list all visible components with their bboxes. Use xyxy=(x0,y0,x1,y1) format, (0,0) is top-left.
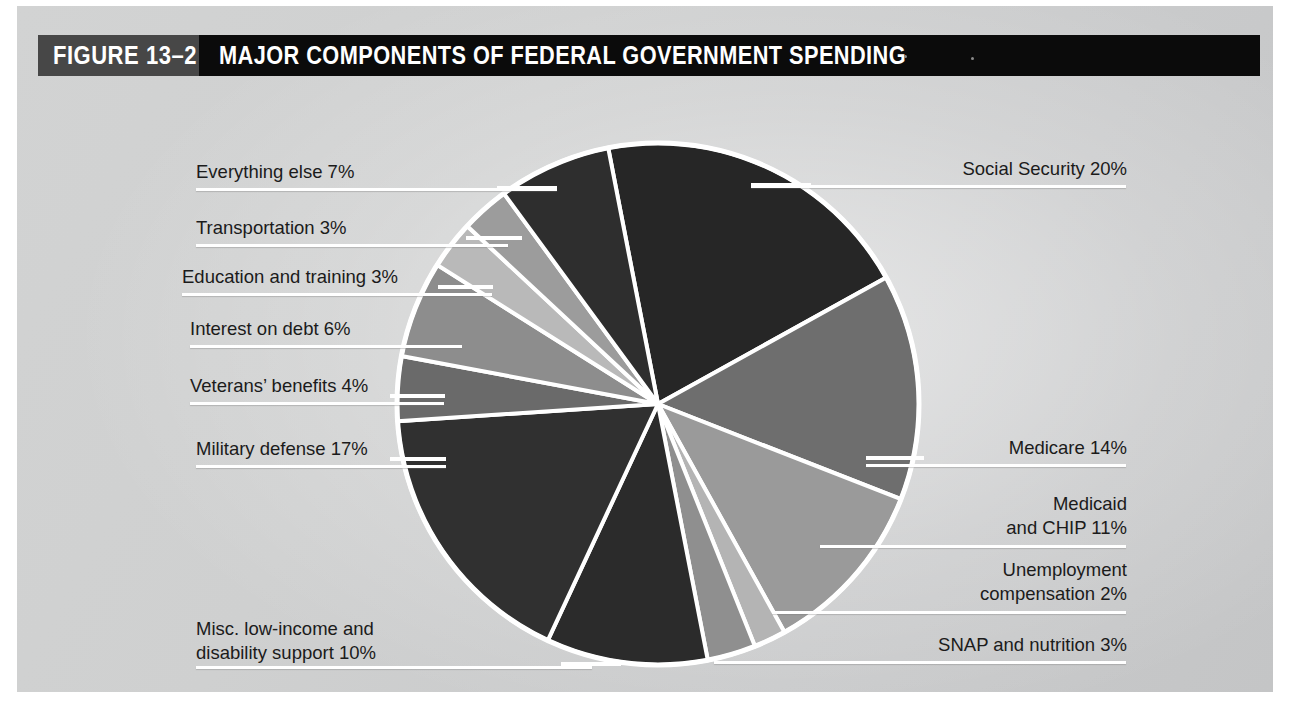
figure-title-text: MAJOR COMPONENTS OF FEDERAL GOVERNMENT S… xyxy=(219,41,906,70)
callout-medicare-text: Medicare 14% xyxy=(1009,437,1127,458)
figure-title-bar: MAJOR COMPONENTS OF FEDERAL GOVERNMENT S… xyxy=(199,35,1260,76)
callout-military-defense: Military defense 17% xyxy=(196,437,368,461)
leader-misc-low-income xyxy=(196,666,592,669)
leader-medicare xyxy=(866,464,1126,467)
callout-military-defense-text: Military defense 17% xyxy=(196,438,368,459)
title-speck-icon xyxy=(904,55,907,58)
leader-education-training xyxy=(182,293,492,296)
callout-veterans-benefits: Veterans’ benefits 4% xyxy=(190,374,368,398)
callout-everything-else-text: Everything else 7% xyxy=(196,161,354,182)
callout-medicaid-chip: Medicaid and CHIP 11% xyxy=(1006,492,1127,541)
figure-root: FIGURE 13–2 MAJOR COMPONENTS OF FEDERAL … xyxy=(0,0,1297,723)
callout-snap-nutrition: SNAP and nutrition 3% xyxy=(938,633,1127,657)
callout-unemployment-line2: compensation 2% xyxy=(980,582,1127,606)
callout-misc-low-income-line2: disability support 10% xyxy=(196,641,376,665)
leader-tick-education-training xyxy=(438,285,493,289)
callout-transportation-text: Transportation 3% xyxy=(196,217,346,238)
leader-interest-on-debt xyxy=(190,345,462,348)
callout-social-security: Social Security 20% xyxy=(962,157,1127,181)
leader-tick-everything-else xyxy=(497,186,557,190)
callout-interest-on-debt-text: Interest on debt 6% xyxy=(190,318,350,339)
callout-unemployment-line1: Unemployment xyxy=(980,558,1127,582)
leader-medicaid-chip xyxy=(820,545,1126,548)
leader-transportation xyxy=(196,244,508,247)
leader-tick-social-security xyxy=(751,183,811,187)
leader-tick-veterans-benefits xyxy=(390,394,445,398)
leader-snap-nutrition xyxy=(714,661,1126,664)
callout-medicaid-chip-line2: and CHIP 11% xyxy=(1006,516,1127,540)
figure-header-bar: FIGURE 13–2 MAJOR COMPONENTS OF FEDERAL … xyxy=(38,35,1260,76)
callout-everything-else: Everything else 7% xyxy=(196,160,354,184)
leader-military-defense xyxy=(196,465,446,468)
callout-education-training-text: Education and training 3% xyxy=(182,266,398,287)
callout-misc-low-income-line1: Misc. low-income and xyxy=(196,617,376,641)
callout-transportation: Transportation 3% xyxy=(196,216,346,240)
leader-unemployment-compensation xyxy=(772,611,1126,614)
callout-social-security-text: Social Security 20% xyxy=(962,158,1127,179)
figure-number-tag: FIGURE 13–2 xyxy=(38,35,215,76)
callout-medicaid-chip-line1: Medicaid xyxy=(1006,492,1127,516)
leader-tick-medicare xyxy=(866,456,924,460)
callout-interest-on-debt: Interest on debt 6% xyxy=(190,317,350,341)
callout-snap-nutrition-text: SNAP and nutrition 3% xyxy=(938,634,1127,655)
callout-veterans-benefits-text: Veterans’ benefits 4% xyxy=(190,375,368,396)
callout-unemployment-compensation: Unemployment compensation 2% xyxy=(980,558,1127,607)
callout-medicare: Medicare 14% xyxy=(1009,436,1127,460)
callout-misc-low-income: Misc. low-income and disability support … xyxy=(196,617,376,666)
title-speck-icon xyxy=(971,57,974,60)
leader-tick-military-defense xyxy=(390,457,446,461)
leader-tick-misc-low-income xyxy=(561,662,621,666)
callout-education-training: Education and training 3% xyxy=(182,265,398,289)
leader-veterans-benefits xyxy=(190,402,444,405)
leader-tick-transportation xyxy=(466,236,522,240)
